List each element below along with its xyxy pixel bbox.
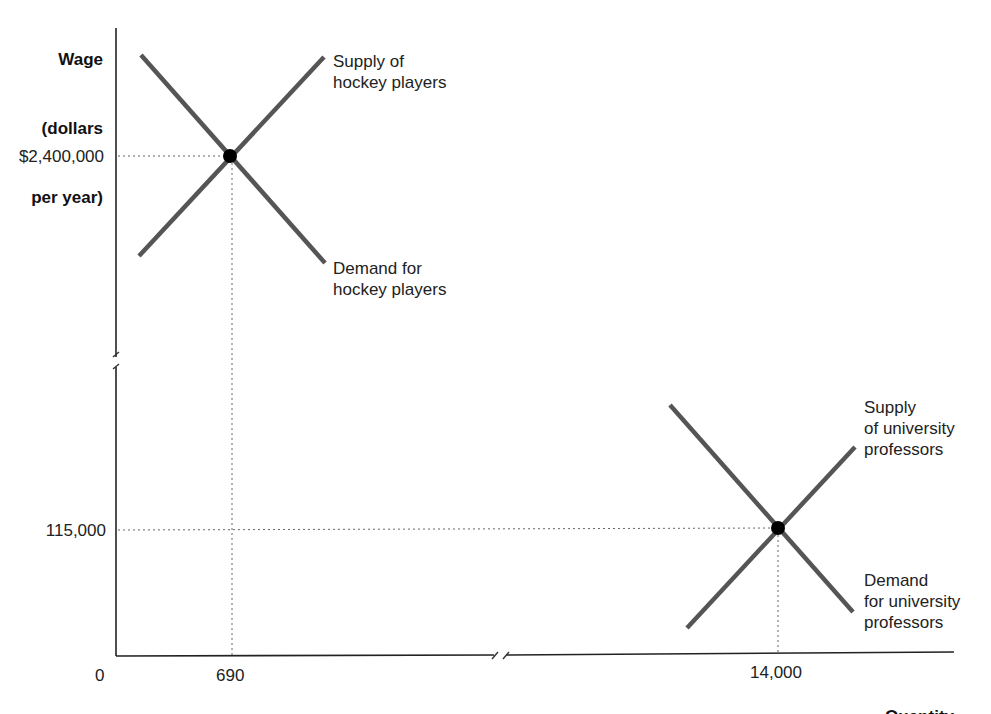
y-axis-title-line: per year) (8, 186, 103, 209)
x-axis-left (116, 655, 494, 656)
x-axis-title: Quantity of labour (850, 662, 954, 714)
y-tick-hockey-wage: $2,400,000 (0, 146, 104, 167)
x-tick-14000: 14,000 (750, 662, 802, 683)
equilibrium-prof-point (771, 521, 785, 535)
x-axis-title-line: Quantity (850, 706, 954, 714)
x-axis-break-icon (492, 652, 509, 659)
demand-prof-curve (670, 405, 853, 612)
demand-prof-label: Demand for university professors (864, 570, 960, 633)
y-axis-title: Wage (dollars per year) (8, 2, 103, 232)
chart-canvas (0, 0, 991, 714)
supply-prof-label: Supply of university professors (864, 397, 955, 460)
y-axis-break-icon (113, 352, 119, 369)
demand-hockey-label: Demand for hockey players (333, 258, 446, 300)
supply-hockey-label: Supply of hockey players (333, 51, 446, 93)
x-axis-right (506, 652, 954, 655)
y-axis-title-line: (dollars (8, 117, 103, 140)
supply-prof-curve (687, 447, 855, 628)
y-tick-prof-wage: 115,000 (0, 520, 106, 541)
equilibrium-hockey-point (223, 149, 237, 163)
x-tick-690: 690 (216, 665, 244, 686)
x-tick-origin: 0 (95, 665, 104, 686)
guide-lines (118, 156, 778, 655)
y-axis-title-line: Wage (8, 48, 103, 71)
